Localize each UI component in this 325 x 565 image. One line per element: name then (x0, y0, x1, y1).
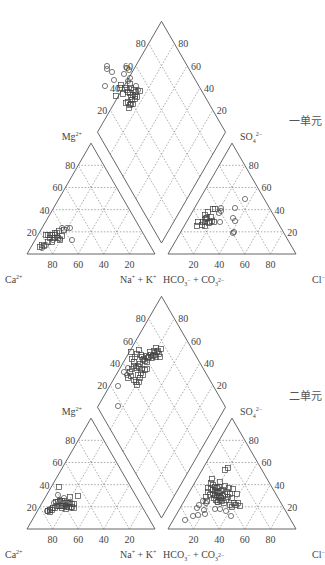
sample-circle (64, 225, 69, 230)
diamond-right-tick: 40 (204, 83, 214, 94)
sample-square (57, 485, 62, 490)
mg-axis-tick: 60 (52, 182, 62, 193)
sample-circle (195, 512, 200, 517)
sample-square (136, 373, 141, 378)
diamond-right-tick: 60 (191, 336, 201, 347)
unit-label: 二单元 (289, 390, 322, 403)
sample-circle (182, 517, 187, 522)
piper-panel-unit-2: 8020202020206040404040404060606060602080… (5, 296, 325, 562)
so4-ion-label: SO42− (240, 406, 263, 419)
ca-axis-tick: 80 (48, 259, 58, 270)
unit-label: 一单元 (289, 115, 322, 128)
sample-circle (212, 506, 217, 511)
so4-axis-tick: 80 (249, 435, 259, 446)
sample-square (235, 492, 240, 497)
diamond-left-tick: 80 (136, 313, 146, 324)
sample-square (213, 207, 218, 212)
so4-axis-tick: 60 (262, 182, 272, 193)
sample-circle (223, 508, 228, 513)
ca-axis-tick: 60 (73, 534, 83, 545)
sample-circle (115, 383, 120, 388)
cl-axis-tick: 60 (240, 259, 250, 270)
sample-circle (190, 513, 195, 518)
diamond-right-tick: 20 (217, 380, 227, 391)
diamond-left-tick: 20 (97, 380, 107, 391)
diamond-right-tick: 60 (191, 61, 201, 72)
sample-square (133, 355, 138, 360)
mg-axis-tick: 20 (27, 227, 37, 238)
cl-axis-tick: 60 (240, 534, 250, 545)
mg-axis-tick: 40 (40, 205, 50, 216)
sample-circle (104, 63, 109, 68)
piper-panel-unit-1: 8020202020206040404040404060606060602080… (5, 21, 325, 287)
cl-axis-tick: 80 (265, 259, 275, 270)
sample-circle (55, 492, 60, 497)
so4-ion-label: SO42− (240, 131, 263, 144)
sample-circle (115, 403, 120, 408)
diamond-left-tick: 60 (123, 336, 133, 347)
sample-circle (228, 513, 233, 518)
na-k-ion-label: Na+ + K+ (120, 549, 157, 560)
diamond-right-tick: 80 (178, 313, 188, 324)
cl-axis-tick: 40 (214, 259, 224, 270)
ca-axis-tick: 40 (99, 259, 109, 270)
sample-circle (102, 83, 107, 88)
diamond-right-tick: 80 (178, 38, 188, 49)
mg-ion-label: Mg2+ (62, 406, 83, 417)
cl-axis-tick: 40 (214, 534, 224, 545)
sample-circle (217, 506, 222, 511)
sample-points (44, 346, 242, 523)
piper-diagram-figure: 8020202020206040404040404060606060602080… (0, 0, 325, 565)
diamond-left-tick: 80 (136, 38, 146, 49)
mg-axis-tick: 20 (27, 502, 37, 513)
sample-square (130, 357, 135, 362)
mg-axis-tick: 80 (65, 435, 75, 446)
sample-circle (67, 225, 72, 230)
cl-ion-label: Cl− (312, 549, 325, 560)
diamond-right-tick: 20 (217, 105, 227, 116)
mg-axis-tick: 80 (65, 160, 75, 171)
ca-axis-tick: 60 (73, 259, 83, 270)
sample-square (76, 494, 81, 499)
so4-axis-tick: 40 (274, 205, 284, 216)
ca-axis-tick: 40 (99, 534, 109, 545)
ca-axis-tick: 20 (124, 534, 134, 545)
so4-axis-tick: 60 (262, 457, 272, 468)
na-k-ion-label: Na+ + K+ (120, 274, 157, 285)
sample-circle (230, 230, 235, 235)
so4-axis-tick: 40 (274, 480, 284, 491)
sample-circle (242, 196, 247, 201)
mg-ion-label: Mg2+ (62, 131, 83, 142)
sample-circle (232, 205, 237, 210)
cl-axis-tick: 80 (265, 534, 275, 545)
sample-square (206, 210, 211, 215)
so4-axis-tick: 20 (287, 227, 297, 238)
so4-axis-tick: 20 (287, 502, 297, 513)
sample-circle (217, 219, 222, 224)
ca-ion-label: Ca2+ (5, 549, 23, 560)
diamond-left-tick: 40 (110, 358, 120, 369)
cl-axis-tick: 20 (189, 534, 199, 545)
cl-ion-label: Cl− (312, 274, 325, 285)
ca-axis-tick: 80 (48, 534, 58, 545)
sample-square (223, 468, 228, 473)
sample-circle (121, 71, 126, 76)
sample-circle (121, 369, 126, 374)
sample-circle (104, 66, 109, 71)
mg-axis-tick: 60 (52, 457, 62, 468)
cl-axis-tick: 20 (189, 259, 199, 270)
sample-circle (109, 69, 114, 74)
sample-square (211, 207, 216, 212)
ca-ion-label: Ca2+ (5, 274, 23, 285)
sample-points (38, 63, 248, 250)
so4-axis-tick: 80 (249, 160, 259, 171)
diamond-right-tick: 40 (204, 358, 214, 369)
hco3-co3-ion-label: HCO3− + CO32− (163, 274, 225, 287)
sample-square (126, 376, 131, 381)
ca-axis-tick: 20 (124, 259, 134, 270)
diamond-left-tick: 20 (97, 105, 107, 116)
mg-axis-tick: 40 (40, 480, 50, 491)
hco3-co3-ion-label: HCO3− + CO32− (163, 549, 225, 562)
